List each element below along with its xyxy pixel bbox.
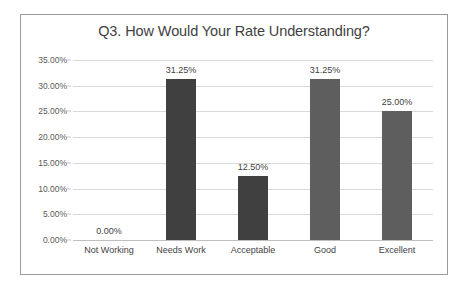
y-axis: 0.00%5.00%10.00%15.00%20.00%25.00%30.00%… bbox=[21, 60, 71, 240]
x-axis-tick-label: Excellent bbox=[379, 245, 416, 255]
x-axis-tick-label: Needs Work bbox=[156, 245, 205, 255]
bar-slot: 12.50% bbox=[217, 60, 289, 240]
y-axis-tick-label: 20.00% bbox=[38, 132, 67, 142]
bar-slot: 31.25% bbox=[145, 60, 217, 240]
y-axis-tick-mark bbox=[67, 137, 71, 138]
y-axis-tick-mark bbox=[67, 111, 71, 112]
y-axis-tick-mark bbox=[67, 214, 71, 215]
bar-value-label: 31.25% bbox=[310, 65, 341, 75]
bar[interactable] bbox=[166, 79, 196, 240]
y-axis-tick-label: 35.00% bbox=[38, 55, 67, 65]
bar[interactable] bbox=[382, 111, 412, 240]
bar-slot: 0.00% bbox=[73, 60, 145, 240]
y-axis-tick-label: 30.00% bbox=[38, 81, 67, 91]
y-axis-tick-label: 10.00% bbox=[38, 184, 67, 194]
y-axis-tick-mark bbox=[67, 162, 71, 163]
x-axis-tick-label: Not Working bbox=[84, 245, 133, 255]
bar-value-label: 25.00% bbox=[382, 97, 413, 107]
bar-slot: 25.00% bbox=[361, 60, 433, 240]
y-axis-tick-label: 15.00% bbox=[38, 158, 67, 168]
bar[interactable] bbox=[310, 79, 340, 240]
y-axis-tick-mark bbox=[67, 240, 71, 241]
bar-series: 0.00%31.25%12.50%31.25%25.00% bbox=[73, 60, 433, 240]
y-axis-tick-mark bbox=[67, 188, 71, 189]
x-axis-tick-label: Acceptable bbox=[231, 245, 276, 255]
bar-slot: 31.25% bbox=[289, 60, 361, 240]
chart-frame: Q3. How Would Your Rate Understanding? 0… bbox=[20, 14, 448, 275]
x-axis: Not WorkingNeeds WorkAcceptableGoodExcel… bbox=[73, 245, 433, 265]
y-axis-tick-label: 0.00% bbox=[43, 235, 67, 245]
bar-value-label: 31.25% bbox=[166, 65, 197, 75]
chart-title: Q3. How Would Your Rate Understanding? bbox=[21, 23, 447, 39]
y-axis-tick-mark bbox=[67, 60, 71, 61]
bar[interactable] bbox=[238, 176, 268, 240]
y-axis-tick-label: 25.00% bbox=[38, 106, 67, 116]
gridline bbox=[73, 240, 433, 241]
y-axis-tick-mark bbox=[67, 85, 71, 86]
bar-value-label: 12.50% bbox=[238, 162, 269, 172]
bar-value-label: 0.00% bbox=[96, 226, 122, 236]
y-axis-tick-label: 5.00% bbox=[43, 209, 67, 219]
x-axis-tick-label: Good bbox=[314, 245, 336, 255]
